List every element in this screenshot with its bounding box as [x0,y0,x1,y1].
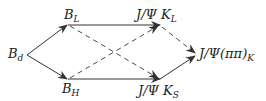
node-jpsi-pipi-sub: K [247,53,254,63]
node-jpsi-pipi-main: J/Ψ(ππ) [199,46,247,61]
node-bh-sub: H [72,88,80,98]
node-bl-main: B [64,7,74,22]
node-jpsi-kl-main: J/Ψ K [136,7,171,22]
node-jpsi-kl-sub: L [171,14,177,24]
edge-bd-bl [27,25,67,55]
node-bl: BL [64,8,80,24]
node-bl-sub: L [74,14,80,24]
node-bh: BH [62,82,79,98]
node-jpsi-ks: J/Ψ KS [138,84,179,100]
node-jpsi-ks-sub: S [173,90,179,100]
node-bd-main: B [8,46,18,61]
node-bh-main: B [62,81,72,96]
edge-bd-bh [27,55,67,79]
node-bd: Bd [8,47,23,63]
node-jpsi-ks-main: J/Ψ K [138,83,173,98]
edge-jpsikl-jpsipipi-dashed [162,27,195,53]
node-jpsi-kl: J/Ψ KL [136,8,177,24]
node-jpsi-pipi: J/Ψ(ππ)K [199,47,254,63]
edge-jpsiks-jpsipipi [160,56,195,79]
node-bd-sub: d [18,53,24,63]
